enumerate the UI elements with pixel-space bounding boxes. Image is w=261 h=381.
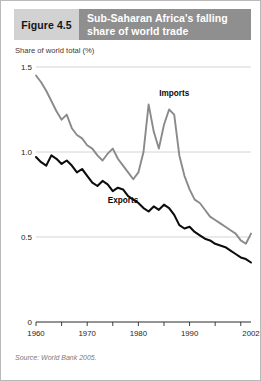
- y-tick-label: 1.5: [21, 63, 33, 72]
- figure-header: Figure 4.5 Sub-Saharan Africa's falling …: [14, 9, 251, 40]
- figure-number-label: Figure 4.5: [21, 19, 72, 31]
- data-series-group: [36, 76, 251, 263]
- y-tick-labels-group: 00.51.01.5: [21, 63, 33, 327]
- series-annotations-group: ImportsExports: [108, 89, 190, 205]
- series-line-exports: [36, 155, 251, 262]
- figure-card: Figure 4.5 Sub-Saharan Africa's falling …: [0, 0, 261, 381]
- series-label-imports: Imports: [159, 89, 189, 98]
- x-tick-label: 1960: [27, 329, 45, 338]
- x-tick-label: 1990: [181, 329, 199, 338]
- x-tick-labels-group: 19601970198019902002: [27, 329, 259, 338]
- series-label-exports: Exports: [108, 196, 139, 205]
- figure-number-box: Figure 4.5: [14, 9, 79, 40]
- x-tickmarks-group: [36, 322, 241, 326]
- line-chart-svg: 00.51.01.5 19601970198019902002 ImportsE…: [1, 1, 261, 381]
- figure-title-box: Sub-Saharan Africa's falling share of wo…: [79, 9, 251, 40]
- y-tick-label: 0: [28, 318, 33, 327]
- source-note: Source: World Bank 2005.: [15, 354, 97, 361]
- figure-title-label: Sub-Saharan Africa's falling share of wo…: [87, 12, 251, 37]
- chart-plot-area: 00.51.01.5 19601970198019902002 ImportsE…: [1, 1, 261, 381]
- y-tick-label: 1.0: [21, 148, 33, 157]
- x-tick-label: 1980: [130, 329, 148, 338]
- series-line-imports: [36, 76, 251, 244]
- y-tick-label: 0.5: [21, 233, 33, 242]
- x-tick-label: 1970: [79, 329, 97, 338]
- x-tick-label: 2002: [242, 329, 259, 338]
- y-axis-caption: Share of world total (%): [15, 46, 94, 55]
- gridlines-group: [36, 67, 251, 237]
